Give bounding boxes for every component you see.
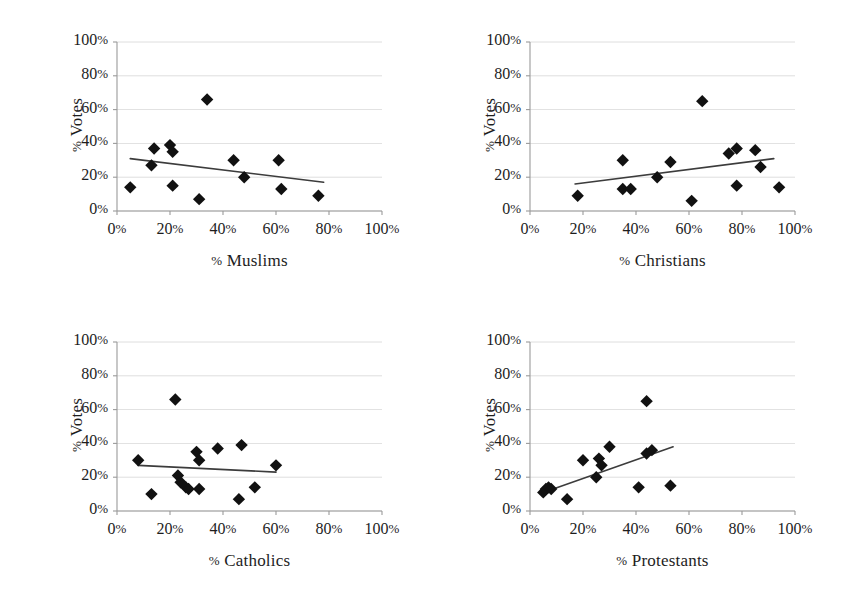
data-point [166,179,178,191]
data-point [124,181,136,193]
data-point [603,441,615,453]
data-point [193,193,205,205]
y-tick-label: 20% [494,466,521,484]
panel-muslims-y-axis-label: % Votes [67,70,87,180]
data-point [312,190,324,202]
data-point [233,493,245,505]
x-tick-label: 0% [87,220,147,238]
data-point [275,183,287,195]
data-point [640,395,652,407]
x-tick-label: 40% [193,520,253,538]
x-tick-label: 100% [765,220,825,238]
data-point [201,93,213,105]
x-tick-label: 100% [352,220,412,238]
x-tick-label: 40% [606,220,666,238]
scatter-panel-figure: % Votes % Muslims 0%20%40%60%80%100%0%20… [0,0,849,605]
x-tick-label: 20% [140,220,200,238]
x-tick-label: 40% [193,220,253,238]
data-point [193,483,205,495]
gridlines [117,342,382,511]
panel-protestants: % Votes % Protestants 0%20%40%60%80%100%… [425,300,849,605]
trendline [138,465,276,472]
y-tick-label: 0% [89,500,108,518]
x-tick-label: 60% [246,220,306,238]
data-point [664,479,676,491]
data-point [272,154,284,166]
y-tick-label: 20% [81,466,108,484]
data-point [625,183,637,195]
panel-christians-y-axis-label: % Votes [480,70,500,180]
y-tick-label: 60% [81,99,108,117]
y-tick-label: 80% [494,365,521,383]
data-point [270,459,282,471]
data-point [754,161,766,173]
x-tick-label: 80% [299,220,359,238]
y-tick-label: 100% [73,331,108,349]
x-tick-label: 20% [140,520,200,538]
data-point [235,439,247,451]
y-tick-label: 40% [81,432,108,450]
panel-protestants-x-axis-label: % Protestants [490,551,835,571]
y-tick-label: 60% [494,99,521,117]
data-points [572,95,786,207]
y-tick-label: 80% [494,65,521,83]
data-point [212,442,224,454]
x-tick-label: 0% [87,520,147,538]
y-tick-label: 20% [81,166,108,184]
y-tick-label: 20% [494,166,521,184]
data-point [696,95,708,107]
x-tick-label: 80% [712,220,772,238]
x-tick-label: 100% [765,520,825,538]
data-point [773,181,785,193]
data-point [577,454,589,466]
data-points [132,393,282,505]
x-tick-label: 0% [500,220,560,238]
data-point [749,144,761,156]
y-tick-label: 40% [81,132,108,150]
panel-muslims: % Votes % Muslims 0%20%40%60%80%100%0%20… [0,0,425,300]
panel-catholics: % Votes % Catholics 0%20%40%60%80%100%0%… [0,300,425,605]
y-tick-label: 80% [81,365,108,383]
data-point [572,190,584,202]
trendline [130,159,323,183]
x-tick-label: 40% [606,520,666,538]
y-tick-label: 100% [486,331,521,349]
data-point [169,393,181,405]
y-tick-label: 100% [486,31,521,49]
data-point [632,481,644,493]
y-tick-label: 60% [81,399,108,417]
y-tick-label: 0% [89,200,108,218]
x-tick-label: 60% [659,520,719,538]
y-tick-label: 0% [502,200,521,218]
data-point [227,154,239,166]
data-point [617,154,629,166]
gridlines [117,42,382,211]
panel-christians-x-axis-label: % Christians [490,251,835,271]
y-tick-label: 100% [73,31,108,49]
x-tick-label: 60% [246,520,306,538]
y-tick-label: 40% [494,132,521,150]
data-point [664,156,676,168]
data-point [561,493,573,505]
gridlines [530,42,795,211]
data-point [731,179,743,191]
x-tick-label: 60% [659,220,719,238]
y-tick-label: 40% [494,432,521,450]
panel-muslims-x-axis-label: % Muslims [77,251,422,271]
y-tick-label: 60% [494,399,521,417]
panel-catholics-y-axis-label: % Votes [67,370,87,480]
y-tick-label: 80% [81,65,108,83]
data-point [145,488,157,500]
y-tick-label: 0% [502,500,521,518]
panel-catholics-x-axis-label: % Catholics [77,551,422,571]
data-points [124,93,325,205]
x-tick-label: 20% [553,220,613,238]
data-point [148,142,160,154]
x-tick-label: 100% [352,520,412,538]
data-points [537,395,677,505]
gridlines [530,342,795,511]
panel-christians: % Votes % Christians 0%20%40%60%80%100%0… [425,0,849,300]
data-point [249,481,261,493]
x-tick-label: 80% [299,520,359,538]
x-tick-label: 0% [500,520,560,538]
